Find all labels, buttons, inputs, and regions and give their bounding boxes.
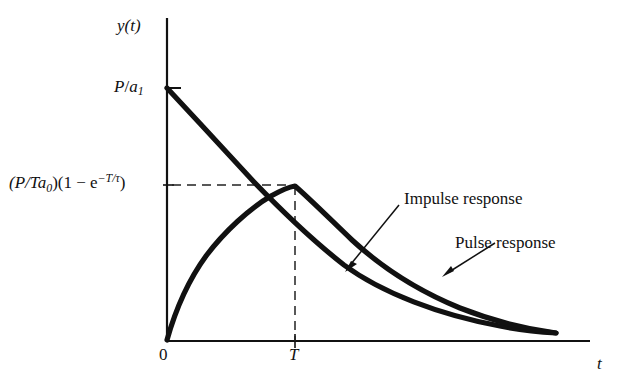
figure-container: y(t) t 0 T P/a1 (P/Ta0)(1 − e−T/τ) Impul… [0, 0, 634, 389]
y-tick-label-top: P/a1 [114, 78, 144, 98]
pulse-response-annotation: Pulse response [455, 234, 556, 251]
y-tick-mid-prefix: (P/Ta [9, 173, 46, 192]
y-tick-top-subscript: 1 [138, 84, 144, 98]
y-tick-mid-superscript: −T/τ [98, 171, 120, 185]
y-tick-top-numerator: P [114, 77, 124, 96]
t-axis-label: t [597, 355, 602, 372]
plot-canvas [0, 0, 634, 389]
x-tick-label-T: T [289, 346, 298, 363]
origin-tick-label: 0 [159, 346, 168, 363]
pulse-leader-arrowhead [442, 266, 454, 277]
impulse-leader-line [351, 205, 399, 264]
pulse-response-curve [167, 186, 556, 340]
y-tick-label-mid: (P/Ta0)(1 − e−T/τ) [9, 173, 125, 194]
y-tick-top-denominator: a [129, 77, 138, 96]
impulse-response-annotation: Impulse response [404, 190, 523, 207]
y-axis-label: y(t) [117, 17, 141, 34]
y-tick-mid-suffix: ) [120, 173, 126, 192]
y-tick-mid-middle: )(1 − e [52, 173, 97, 192]
impulse-response-curve [167, 88, 556, 333]
